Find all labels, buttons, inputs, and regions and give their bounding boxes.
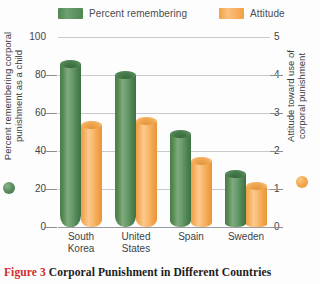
right-tick-mark-4 [270,75,283,76]
bar-percent-united-states [115,71,136,227]
figure-container: Percent remembering Attitude 100 80 60 4… [0,0,320,284]
bar-body [225,174,246,227]
gridline-80 [58,75,270,76]
bar-cap [81,121,102,129]
bar-body [170,134,191,227]
bar-attitude-united-states [136,117,157,227]
bar-body [191,161,212,227]
bar-body [136,121,157,227]
bar-cap [60,60,81,68]
bar-body [246,186,267,227]
category-axis-labels: South Korea United States Spain Sweden [58,231,270,257]
figure-caption: Figure 3 Corporal Punishment in Differen… [4,266,316,278]
chart-legend: Percent remembering Attitude [58,5,310,21]
bar-percent-spain [170,130,191,227]
bar-cap [191,157,212,165]
category-label-sweden: Sweden [218,231,274,243]
bar-attitude-spain [191,157,212,227]
bar-attitude-sweden [246,182,267,227]
left-tick-mark-20 [44,189,57,190]
bar-body [60,64,81,227]
category-label-spain: Spain [163,231,219,243]
category-label-united-states: United States [108,231,164,255]
bar-percent-south-korea [60,60,81,227]
orange-swatch-icon [219,8,244,19]
gridline-60 [58,113,270,114]
right-axis-title: Attitude toward use of corporal punishme… [285,16,307,176]
right-tick-mark-1 [270,189,283,190]
legend-entry-attitude: Attitude [219,8,285,19]
figure-number: Figure 3 [4,266,46,278]
left-tick-mark-60 [44,113,57,114]
right-tick-mark-3 [270,113,283,114]
right-tick-mark-0 [270,227,283,228]
bar-cap [115,71,136,79]
gridline-0 [58,227,270,228]
bar-attitude-south-korea [81,121,102,227]
right-axis-marker-dot-icon [296,176,308,188]
left-axis-title: Percent remembering corporal punishment … [2,16,24,176]
gridline-100 [58,37,270,38]
bar-body [115,75,136,227]
bar-cap [225,170,246,178]
category-label-south-korea: South Korea [53,231,109,255]
left-tick-mark-80 [44,75,57,76]
plot-area [58,37,270,227]
figure-title: Corporal Punishment in Different Countri… [49,266,271,278]
left-axis-tick-20: 20 [20,184,46,194]
left-axis-tick-0: 0 [20,222,46,232]
bar-cap [246,182,267,190]
bar-body [81,125,102,227]
legend-label-attitude: Attitude [250,8,285,19]
bar-cap [170,130,191,138]
green-swatch-icon [58,8,83,19]
legend-entry-percent-remembering: Percent remembering [58,8,187,19]
left-tick-mark-0 [44,227,57,228]
bar-percent-sweden [225,170,246,227]
left-tick-mark-40 [44,151,57,152]
legend-label-percent-remembering: Percent remembering [89,8,187,19]
left-axis-marker-dot-icon [3,182,15,194]
right-tick-mark-2 [270,151,283,152]
bar-cap [136,117,157,125]
